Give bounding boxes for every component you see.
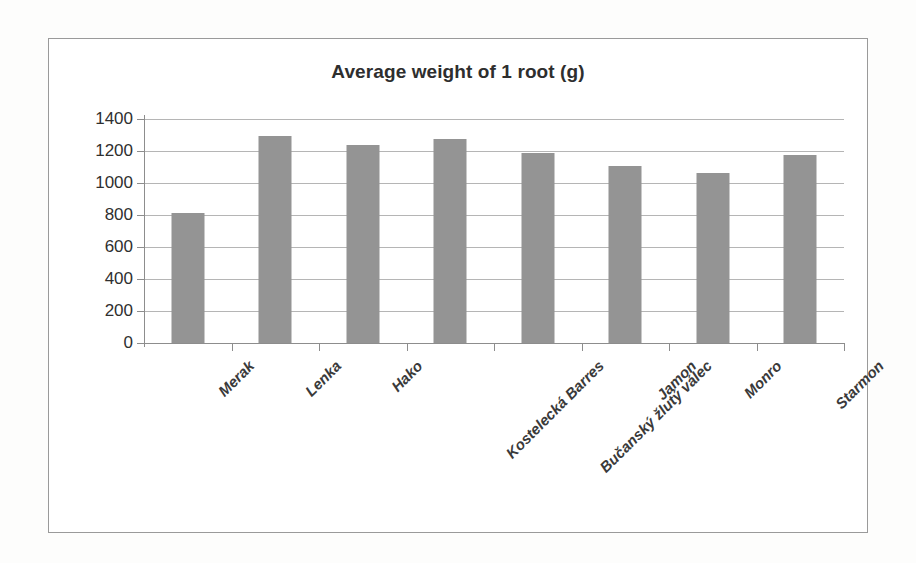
y-tick-label: 800 xyxy=(105,205,133,225)
y-tick-mark xyxy=(137,215,145,216)
x-tick-mark xyxy=(844,343,845,351)
y-tick-mark xyxy=(137,183,145,184)
page-background: Average weight of 1 root (g) 02004006008… xyxy=(0,0,916,563)
gridline xyxy=(144,247,844,248)
x-axis-category-label: Starmon xyxy=(832,357,887,412)
y-tick-mark xyxy=(137,311,145,312)
x-tick-mark xyxy=(407,343,408,351)
y-tick-mark xyxy=(137,151,145,152)
gridline xyxy=(144,119,844,120)
y-tick-label: 400 xyxy=(105,269,133,289)
bar xyxy=(521,153,554,343)
x-axis-category-label: Kostelecká Barres xyxy=(503,357,608,462)
x-tick-mark xyxy=(757,343,758,351)
y-tick-mark xyxy=(137,119,145,120)
gridline xyxy=(144,151,844,152)
y-tick-mark xyxy=(137,343,145,344)
gridline xyxy=(144,183,844,184)
x-tick-mark xyxy=(319,343,320,351)
chart-frame: Average weight of 1 root (g) 02004006008… xyxy=(48,38,868,533)
y-tick-mark xyxy=(137,247,145,248)
x-tick-mark xyxy=(494,343,495,351)
x-axis-category-label: Monro xyxy=(740,357,784,401)
y-axis-line xyxy=(144,115,145,347)
y-tick-label: 1200 xyxy=(95,141,133,161)
y-tick-label: 0 xyxy=(124,333,133,353)
bar xyxy=(609,166,642,343)
y-tick-label: 1400 xyxy=(95,109,133,129)
gridline xyxy=(144,279,844,280)
bar xyxy=(434,139,467,343)
x-axis-category-label: Lenka xyxy=(302,357,345,400)
x-axis-line xyxy=(138,343,844,344)
x-axis-category-label: Bučanský žlutý válec xyxy=(596,357,715,476)
plot-area: 0200400600800100012001400 MerakLenkaHako… xyxy=(144,119,844,343)
bar xyxy=(259,136,292,343)
gridline xyxy=(144,215,844,216)
x-tick-mark xyxy=(582,343,583,351)
bar xyxy=(171,213,204,343)
x-tick-mark xyxy=(232,343,233,351)
bar xyxy=(346,145,379,343)
y-tick-label: 1000 xyxy=(95,173,133,193)
x-axis-category-label: Merak xyxy=(214,357,257,400)
gridline xyxy=(144,311,844,312)
chart-title: Average weight of 1 root (g) xyxy=(49,61,867,83)
x-axis-category-label: Hako xyxy=(387,357,425,395)
x-tick-mark xyxy=(669,343,670,351)
bar xyxy=(696,173,729,343)
bar xyxy=(784,155,817,343)
y-tick-mark xyxy=(137,279,145,280)
y-tick-label: 200 xyxy=(105,301,133,321)
y-tick-label: 600 xyxy=(105,237,133,257)
